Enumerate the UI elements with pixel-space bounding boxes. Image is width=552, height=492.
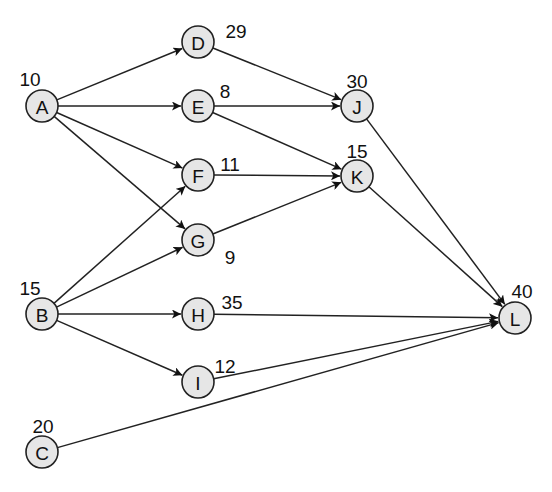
node-duration: 15 (346, 141, 367, 162)
node-label: F (192, 166, 204, 187)
edges-layer (54, 48, 505, 448)
node-duration: 8 (220, 81, 231, 102)
node-duration: 30 (346, 71, 367, 92)
node-G: G9 (182, 224, 235, 268)
node-duration: 20 (32, 416, 53, 437)
node-duration: 15 (19, 278, 40, 299)
node-label: L (510, 309, 521, 330)
node-duration: 9 (225, 247, 236, 268)
node-B: B15 (19, 278, 58, 331)
node-label: J (352, 97, 362, 118)
edge-B-F (54, 186, 185, 303)
node-H: H35 (182, 292, 243, 331)
edge-K-L (369, 187, 502, 307)
edge-B-G (56, 247, 182, 307)
node-duration: 35 (221, 292, 242, 313)
edge-J-L (367, 119, 505, 305)
network-diagram: A10B15C20D29E8F11G9H35I12J30K15L40 (0, 0, 552, 492)
edge-H-L (214, 314, 498, 318)
edge-F-K (214, 175, 340, 176)
node-A: A10 (19, 69, 58, 123)
node-K: K15 (341, 141, 373, 193)
node-label: G (191, 231, 206, 252)
node-duration: 10 (19, 69, 40, 90)
edge-A-F (57, 112, 183, 168)
node-C: C20 (26, 416, 58, 469)
edge-A-G (54, 116, 185, 228)
edge-A-D (57, 48, 182, 99)
node-label: D (191, 33, 205, 54)
node-label: C (35, 443, 49, 464)
node-duration: 11 (220, 154, 240, 175)
node-duration: 29 (225, 21, 246, 42)
node-label: A (36, 97, 49, 118)
node-E: E8 (182, 81, 230, 123)
node-label: B (36, 305, 49, 326)
edge-I-L (214, 321, 499, 378)
node-D: D29 (182, 21, 247, 59)
node-L: L40 (499, 281, 533, 335)
edge-D-J (213, 48, 341, 100)
node-label: K (351, 167, 364, 188)
nodes-layer: A10B15C20D29E8F11G9H35I12J30K15L40 (19, 21, 532, 469)
edge-B-I (57, 320, 183, 375)
node-label: I (195, 373, 200, 394)
node-J: J30 (341, 71, 373, 123)
node-duration: 12 (214, 356, 235, 377)
node-duration: 40 (511, 281, 532, 302)
node-F: F11 (182, 154, 240, 192)
edge-G-K (213, 182, 341, 234)
node-label: H (191, 305, 205, 326)
edge-C-L (57, 323, 498, 448)
node-label: E (192, 97, 205, 118)
